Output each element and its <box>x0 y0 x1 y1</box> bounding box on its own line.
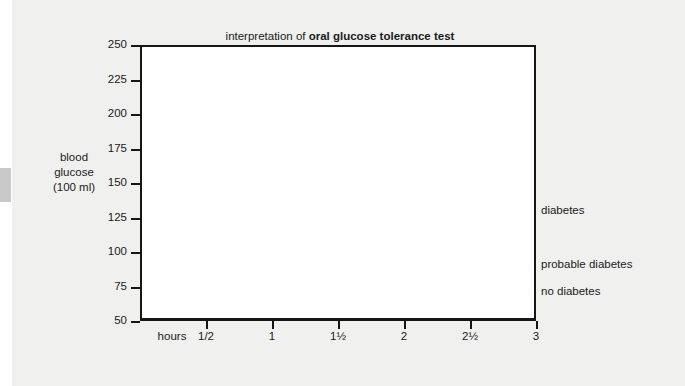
x-axis-tick <box>536 321 538 329</box>
x-axis-tick-label: 2½ <box>462 330 478 342</box>
x-axis-tick-label: 1½ <box>330 330 346 342</box>
page-background: interpretation of oral glucose tolerance… <box>0 0 685 386</box>
y-axis-tick-label: 175 <box>108 142 127 154</box>
series-label-probable-diabetes: probable diabetes <box>541 258 632 270</box>
x-axis-tick-label: 1 <box>269 330 275 342</box>
y-axis-title-line-2: glucose <box>30 165 118 180</box>
y-axis-title-line-1: blood <box>30 150 118 165</box>
y-axis-tick-label: 125 <box>108 211 127 223</box>
series-label-no-diabetes: no diabetes <box>541 285 600 297</box>
x-axis-tick-label: 3 <box>533 330 539 342</box>
chart-title: interpretation of oral glucose tolerance… <box>145 30 535 42</box>
x-axis-tick <box>272 321 274 329</box>
y-axis-tick: 75 <box>131 287 140 289</box>
plot-area: 2502252001751501251007550 hours1/211½22½… <box>140 45 536 321</box>
x-axis-tick-label: 2 <box>401 330 407 342</box>
y-axis-tick-label: 75 <box>114 280 127 292</box>
y-axis-tick: 125 <box>131 218 140 220</box>
x-axis-tick <box>470 321 472 329</box>
y-axis-tick: 200 <box>131 114 140 116</box>
chart-title-emphasis: oral glucose tolerance test <box>309 30 455 42</box>
y-axis-title-line-3: (100 ml) <box>30 180 118 195</box>
chart-figure: interpretation of oral glucose tolerance… <box>0 0 685 386</box>
y-axis-tick: 150 <box>131 183 140 185</box>
y-axis-tick-label: 100 <box>108 245 127 257</box>
y-axis-tick-label: 250 <box>108 38 127 50</box>
y-axis-tick-label: 225 <box>108 73 127 85</box>
x-axis-tick <box>404 321 406 329</box>
y-axis-tick: 175 <box>131 149 140 151</box>
y-axis-tick-label: 200 <box>108 107 127 119</box>
x-axis-tick <box>206 321 208 329</box>
y-axis-tick: 225 <box>131 80 140 82</box>
y-axis-tick-label: 150 <box>108 176 127 188</box>
y-axis-tick-label: 50 <box>114 314 127 326</box>
x-axis-tick-label: 1/2 <box>198 330 214 342</box>
y-axis-title: blood glucose (100 ml) <box>30 150 118 195</box>
plot-frame <box>140 45 536 321</box>
x-axis-tick <box>338 321 340 329</box>
y-axis-tick: 100 <box>131 252 140 254</box>
y-axis-tick: 50 <box>131 321 140 323</box>
chart-title-prefix: interpretation of <box>226 30 309 42</box>
series-label-diabetes: diabetes <box>541 204 584 216</box>
x-axis-unit-label: hours <box>158 330 187 342</box>
y-axis-tick: 250 <box>131 45 140 47</box>
